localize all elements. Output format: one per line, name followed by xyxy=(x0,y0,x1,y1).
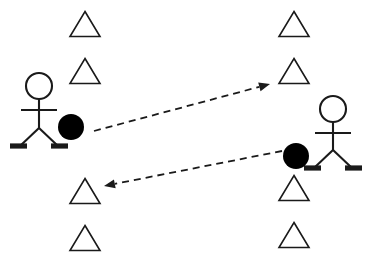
head-icon xyxy=(320,96,346,122)
leg-left-line xyxy=(20,128,39,146)
right-stick-figure xyxy=(304,96,362,168)
arrow-shaft xyxy=(94,87,259,131)
cone-icon xyxy=(279,223,309,248)
diagram-canvas xyxy=(0,0,370,271)
arrow-head-icon xyxy=(258,82,270,91)
cone-icon xyxy=(279,176,309,201)
pass-arrow-leftward xyxy=(104,151,282,188)
cone-icon xyxy=(70,59,100,84)
head-icon xyxy=(26,73,52,99)
black-ball-right xyxy=(283,143,309,169)
cone-icon xyxy=(70,179,100,204)
diagram-svg xyxy=(0,0,370,271)
arrow-shaft xyxy=(115,151,282,184)
left-stick-figure xyxy=(10,73,68,146)
cone-icon xyxy=(70,12,100,37)
arrow-head-icon xyxy=(104,179,116,188)
cone-group-right xyxy=(279,12,309,248)
leg-right-line xyxy=(39,128,58,146)
cone-icon xyxy=(279,59,309,84)
cone-icon xyxy=(279,12,309,37)
leg-right-line xyxy=(333,150,352,168)
black-ball-left xyxy=(58,114,84,140)
leg-left-line xyxy=(314,150,333,168)
pass-arrow-rightward xyxy=(94,82,270,131)
cone-icon xyxy=(70,226,100,251)
